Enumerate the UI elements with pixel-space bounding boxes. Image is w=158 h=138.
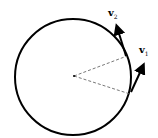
- circle-path: [15, 19, 131, 135]
- circular-motion-diagram: [0, 0, 158, 138]
- center-point: [73, 75, 75, 77]
- vector-v1-arrow: [131, 66, 143, 92]
- radius-line-1: [74, 56, 127, 76]
- vector-v2-label: v2: [108, 8, 118, 20]
- radius-line-2: [74, 76, 130, 94]
- vector-v1-label: v1: [139, 45, 149, 57]
